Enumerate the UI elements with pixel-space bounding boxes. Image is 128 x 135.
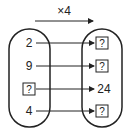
output-value: ? [99,61,105,72]
output-value: ? [99,106,105,117]
operation-arrow: ×4 [35,4,93,21]
input-value: 4 [26,104,33,118]
input-value: 2 [26,36,33,50]
mapping-diagram: ×4 2 ? 9 ? ? 24 4 ? [0,0,128,135]
operation-label: ×4 [57,4,71,18]
mapping-row-4: 4 ? [26,104,108,118]
mapping-row-2: 9 ? [26,59,108,73]
output-value: ? [99,38,105,49]
mapping-row-1: 2 ? [26,36,108,50]
input-value: ? [26,84,32,95]
input-value: 9 [26,59,33,73]
mapping-row-3: ? 24 [23,82,111,96]
output-value: 24 [97,82,111,96]
